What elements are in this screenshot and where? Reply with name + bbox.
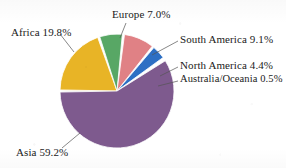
slice-label-australia-oceania: Australia/Oceania 0.5%: [180, 74, 283, 85]
pie-chart-figure: Europe 7.0% Africa 19.8% South America 9…: [0, 0, 286, 168]
slice-label-europe: Europe 7.0%: [112, 9, 171, 20]
slice-label-south-america: South America 9.1%: [180, 34, 273, 45]
pie-slices-group: [60, 34, 174, 148]
slice-label-north-america: North America 4.4%: [180, 60, 273, 71]
leader-line-south-america: [152, 41, 178, 55]
slice-label-asia: Asia 59.2%: [16, 147, 68, 158]
slice-label-africa: Africa 19.8%: [11, 27, 71, 38]
